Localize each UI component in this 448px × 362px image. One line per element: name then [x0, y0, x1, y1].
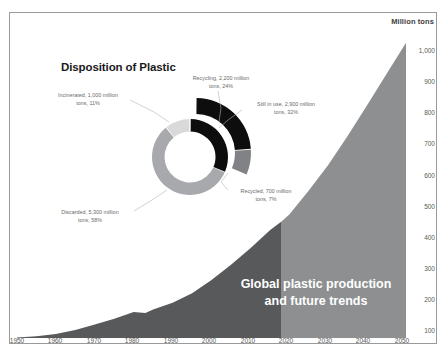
leader-incinerated: [130, 100, 169, 122]
x-tick-2010: 2010: [237, 338, 259, 345]
donut-inner-ring: [152, 119, 228, 195]
leader-discarded: [134, 190, 167, 211]
donut-outer-slice-recycled: [232, 150, 251, 175]
callout-discarded: Discarded, 5,300 milliontons, 58%: [46, 209, 134, 225]
y-tick-100: 100: [424, 328, 435, 335]
callout-incinerated: Incinerated, 1,000 milliontons, 11%: [47, 92, 129, 108]
y-tick-500: 500: [424, 204, 435, 211]
y-tick-800: 800: [424, 110, 435, 117]
y-tick-400: 400: [424, 235, 435, 242]
donut-chart-title: Disposition of Plastic: [61, 61, 176, 73]
y-tick-1000: 1,000: [419, 48, 435, 55]
x-tick-1970: 1970: [83, 338, 105, 345]
plastic-production-infographic: Million tons 1,000 900 800 700 600 500 4…: [0, 0, 448, 362]
donut-slice-still-in-use: [190, 119, 228, 172]
x-tick-2020: 2020: [275, 338, 297, 345]
callout-still-in-use: Still in use, 2,900 milliontons, 32%: [243, 101, 329, 117]
x-tick-1990: 1990: [160, 338, 182, 345]
y-tick-300: 300: [424, 266, 435, 273]
y-tick-700: 700: [424, 141, 435, 148]
y-tick-900: 900: [424, 79, 435, 86]
area-caption-line-1: Global plastic production: [228, 276, 404, 293]
x-tick-1960: 1960: [44, 338, 66, 345]
y-tick-600: 600: [424, 173, 435, 180]
x-tick-2040: 2040: [352, 338, 374, 345]
callout-recycling: Recycling, 2,200 milliontons, 24%: [182, 75, 260, 91]
x-tick-1950: 1950: [6, 338, 28, 345]
y-tick-200: 200: [424, 297, 435, 304]
x-tick-2050: 2050: [391, 338, 413, 345]
area-caption-line-2: and future trends: [228, 293, 404, 310]
x-tick-2000: 2000: [198, 338, 220, 345]
x-tick-1980: 1980: [121, 338, 143, 345]
x-tick-2030: 2030: [314, 338, 336, 345]
y-axis-unit-label: Million tons: [391, 17, 434, 26]
area-chart-caption: Global plastic production and future tre…: [228, 276, 404, 309]
callout-recycled: Recycled, 700 milliontons, 7%: [226, 188, 306, 204]
